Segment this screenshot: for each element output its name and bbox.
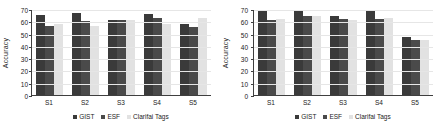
y-axis-tick-label: 30 [232, 56, 248, 63]
x-axis-tick-label: S3 [326, 98, 360, 108]
gridline [254, 10, 433, 11]
bar [72, 13, 81, 95]
x-axis-tick-label: S5 [398, 98, 432, 108]
y-axis-tickmark [29, 35, 32, 36]
y-axis-tick-label: 30 [12, 56, 28, 63]
y-axis-tick-label: 20 [12, 68, 28, 75]
x-axis-tick-labels: S1S2S3S4S5 [253, 98, 433, 108]
y-axis-tick-label: 10 [12, 80, 28, 87]
legend-swatch-icon [101, 115, 105, 119]
bar [294, 11, 303, 95]
gridline [32, 22, 211, 23]
chart-legend: GISTESFClarifai Tags [31, 113, 211, 120]
legend-item: ESF [323, 113, 342, 120]
y-axis-tick-labels: 706050403020100 [12, 10, 28, 96]
legend-item: Clarifai Tags [349, 113, 391, 120]
y-axis-title: Accuracy [2, 5, 12, 101]
y-axis-tickmark [29, 71, 32, 72]
chart-panel-left: Accuracy 706050403020100 S1S2S3S4S5 GIST… [0, 0, 220, 134]
y-axis-tick-label: 40 [12, 43, 28, 50]
gridline [254, 59, 433, 60]
y-axis-tickmark [29, 84, 32, 85]
legend-label: ESF [107, 113, 120, 120]
legend-label: GIST [301, 113, 316, 120]
gridline [254, 71, 433, 72]
gridline [254, 47, 433, 48]
y-axis-tickmark [251, 71, 254, 72]
x-axis-tick-label: S4 [140, 98, 174, 108]
x-axis-tick-label: S3 [104, 98, 138, 108]
gridline [32, 84, 211, 85]
y-axis-tickmark [29, 22, 32, 23]
legend-swatch-icon [323, 115, 327, 119]
gridline [32, 59, 211, 60]
y-axis-tick-label: 50 [12, 31, 28, 38]
y-axis-tickmark [251, 47, 254, 48]
legend-label: ESF [329, 113, 342, 120]
plot-area [253, 10, 433, 96]
legend-label: Clarifai Tags [133, 113, 169, 120]
y-axis-tickmark [29, 10, 32, 11]
y-axis-tickmark [251, 59, 254, 60]
gridline [32, 71, 211, 72]
y-axis-tickmark [251, 96, 254, 97]
y-axis-tickmark [29, 59, 32, 60]
y-axis-tick-label: 0 [232, 93, 248, 100]
y-axis-tickmark [251, 35, 254, 36]
y-axis-tickmark [251, 84, 254, 85]
gridline [254, 35, 433, 36]
y-axis-tick-label: 60 [12, 19, 28, 26]
grouped-bar-chart-figure: Accuracy 706050403020100 S1S2S3S4S5 GIST… [0, 0, 441, 134]
y-axis-tick-labels: 706050403020100 [232, 10, 248, 96]
y-axis-tick-label: 20 [232, 68, 248, 75]
bar [366, 11, 375, 95]
bar [411, 40, 420, 95]
legend-swatch-icon [73, 115, 77, 119]
y-axis-tick-label: 40 [232, 43, 248, 50]
plot-area [31, 10, 211, 96]
y-axis-tick-label: 70 [232, 7, 248, 14]
y-axis-tick-label: 60 [232, 19, 248, 26]
x-axis-tick-labels: S1S2S3S4S5 [31, 98, 211, 108]
y-axis-tickmark [251, 10, 254, 11]
bar [420, 40, 429, 95]
y-axis-tickmark [251, 22, 254, 23]
bar [189, 27, 198, 95]
x-axis-tick-label: S2 [290, 98, 324, 108]
y-axis-tick-label: 50 [232, 31, 248, 38]
legend-item: ESF [101, 113, 120, 120]
x-axis-tick-label: S4 [362, 98, 396, 108]
gridline [32, 35, 211, 36]
legend-swatch-icon [349, 115, 353, 119]
legend-label: GIST [79, 113, 94, 120]
gridline [254, 84, 433, 85]
y-axis-tick-label: 70 [12, 7, 28, 14]
y-axis-tick-label: 10 [232, 80, 248, 87]
legend-swatch-icon [295, 115, 299, 119]
legend-item: GIST [295, 113, 316, 120]
y-axis-tickmark [29, 47, 32, 48]
legend-item: GIST [73, 113, 94, 120]
y-axis-tick-label: 0 [12, 93, 28, 100]
x-axis-tick-label: S1 [254, 98, 288, 108]
gridline [32, 47, 211, 48]
y-axis-tickmark [29, 96, 32, 97]
chart-legend: GISTESFClarifai Tags [253, 113, 433, 120]
x-axis-tick-label: S1 [32, 98, 66, 108]
y-axis-title: Accuracy [222, 5, 232, 101]
legend-swatch-icon [127, 115, 131, 119]
gridline [32, 10, 211, 11]
legend-item: Clarifai Tags [127, 113, 169, 120]
gridline [254, 22, 433, 23]
x-axis-tick-label: S5 [176, 98, 210, 108]
legend-label: Clarifai Tags [355, 113, 391, 120]
chart-panel-right: Accuracy 706050403020100 S1S2S3S4S5 GIST… [220, 0, 441, 134]
x-axis-tick-label: S2 [68, 98, 102, 108]
